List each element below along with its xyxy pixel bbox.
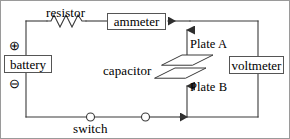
switch-terminal-right [142,113,150,121]
component-voltmeter: voltmeter [229,56,284,74]
label-capacitor: capacitor [103,64,152,77]
battery-negative-terminal-icon: ⊖ [9,76,20,91]
battery-positive-terminal-icon: ⊕ [9,38,20,53]
label-switch: switch [73,122,108,135]
capacitor-plate-b-shape [155,68,206,78]
circuit-diagram-figure: resistor capacitor switch Plate A Plate … [0,0,290,139]
component-battery: battery [4,55,52,73]
label-resistor: resistor [46,6,85,19]
label-plate-a: Plate A [190,38,227,51]
switch-terminal-left [87,113,95,121]
component-ammeter: ammeter [107,13,166,30]
label-plate-b: Plate B [190,81,227,94]
capacitor-plate-a-shape [162,55,213,65]
